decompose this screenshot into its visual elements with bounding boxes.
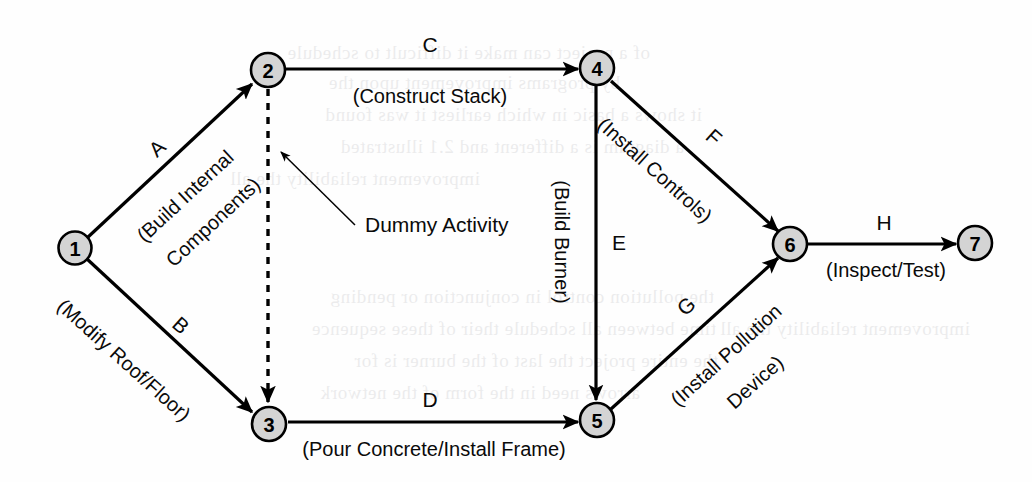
- edge-G[interactable]: G (Install Pollution Device): [611, 258, 788, 413]
- node-6-label: 6: [784, 234, 795, 256]
- node-1[interactable]: 1: [59, 232, 92, 265]
- node-1-label: 1: [69, 238, 80, 260]
- node-7-label: 7: [969, 233, 980, 255]
- node-4[interactable]: 4: [580, 51, 614, 85]
- network-diagram: A (Build Internal Components) B (Modify …: [0, 0, 1032, 482]
- edge-B-desc: (Modify Roof/Floor): [53, 295, 195, 426]
- node-3-label: 3: [263, 414, 274, 436]
- node-3[interactable]: 3: [252, 407, 286, 441]
- node-5[interactable]: 5: [580, 403, 614, 437]
- node-5-label: 5: [591, 410, 602, 432]
- edge-E-code: E: [612, 231, 626, 254]
- node-2-label: 2: [262, 60, 273, 82]
- edge-C[interactable]: C (Construct Stack): [286, 33, 578, 108]
- edge-F-code: F: [702, 124, 727, 150]
- node-4-label: 4: [591, 58, 603, 80]
- edge-D[interactable]: D (Pour Concrete/Install Frame): [288, 388, 578, 461]
- edge-H-desc: (Inspect/Test): [826, 259, 946, 281]
- edge-D-code: D: [422, 388, 437, 411]
- edge-G-code: G: [672, 292, 700, 320]
- edge-F[interactable]: F (Install Controls): [594, 81, 778, 231]
- edge-A-code: A: [144, 135, 170, 161]
- edge-A[interactable]: A (Build Internal Components): [87, 84, 264, 271]
- edge-H-code: H: [876, 211, 891, 234]
- dummy-activity-annotation[interactable]: Dummy Activity: [281, 152, 509, 236]
- node-6[interactable]: 6: [773, 227, 807, 261]
- node-2[interactable]: 2: [251, 53, 285, 87]
- edge-B-code: B: [168, 312, 194, 338]
- edge-F-desc: (Install Controls): [594, 113, 717, 227]
- edge-E-desc: (Build Burner): [551, 180, 573, 303]
- dummy-activity-label: Dummy Activity: [365, 213, 509, 236]
- diagram-canvas: of a project can make it difficult to sc…: [0, 0, 1032, 482]
- node-7[interactable]: 7: [958, 226, 992, 260]
- edge-D-desc: (Pour Concrete/Install Frame): [302, 438, 565, 460]
- edge-A-desc-line1: (Build Internal: [132, 146, 237, 246]
- edge-B[interactable]: B (Modify Roof/Floor): [53, 259, 252, 425]
- dummy-activity-pointer-icon: [281, 152, 355, 225]
- edge-C-code: C: [422, 33, 437, 56]
- edge-H[interactable]: H (Inspect/Test): [808, 211, 956, 282]
- edge-C-desc: (Construct Stack): [353, 85, 507, 107]
